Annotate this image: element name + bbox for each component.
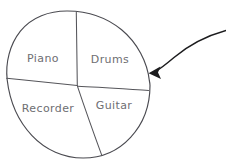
- pie-outline: [7, 11, 150, 158]
- pie-slice-label-piano: Piano: [27, 52, 59, 65]
- pie-slice-label-recorder: Recorder: [22, 102, 75, 115]
- figure-canvas: Piano Drums Recorder Guitar: [0, 0, 226, 164]
- annotation-arrow-head: [149, 67, 161, 79]
- pie-slice-label-guitar: Guitar: [96, 99, 133, 112]
- pie-slice-label-drums: Drums: [91, 53, 129, 66]
- annotation-arrow-line: [156, 31, 227, 72]
- pie-chart-figure: [0, 0, 226, 164]
